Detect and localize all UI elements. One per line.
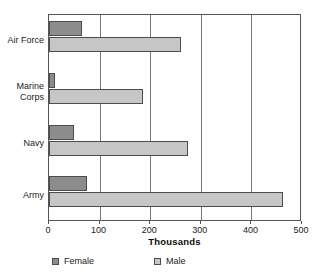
y-axis-label-line: Navy bbox=[0, 138, 44, 149]
y-axis-label-line: Corps bbox=[0, 92, 44, 103]
bar-group bbox=[49, 15, 300, 67]
legend-label: Male bbox=[166, 256, 186, 267]
bar-group bbox=[49, 119, 300, 171]
x-axis-tick-mark bbox=[149, 221, 150, 224]
y-axis-labels: Air ForceMarineCorpsNavyArmy bbox=[0, 14, 44, 221]
x-axis-title: Thousands bbox=[48, 236, 301, 247]
legend-item-female[interactable]: Female bbox=[52, 256, 94, 267]
y-axis-label-army: Army bbox=[0, 190, 44, 201]
x-axis-tick-mark bbox=[48, 221, 49, 224]
x-axis-tick-label: 400 bbox=[243, 225, 258, 236]
x-axis-tick-mark bbox=[99, 221, 100, 224]
bar-female-marine-corps bbox=[49, 73, 55, 88]
bar-male-army bbox=[49, 192, 283, 207]
bar-male-navy bbox=[49, 141, 188, 156]
y-axis-label-line: Army bbox=[0, 190, 44, 201]
bar-female-navy bbox=[49, 125, 74, 140]
x-axis-tick-label: 100 bbox=[91, 225, 106, 236]
legend-item-male[interactable]: Male bbox=[154, 256, 186, 267]
bar-group bbox=[49, 67, 300, 119]
x-axis-tick-label: 300 bbox=[192, 225, 207, 236]
x-axis-tick-mark bbox=[250, 221, 251, 224]
bar-male-air-force bbox=[49, 37, 181, 52]
legend-swatch-icon bbox=[154, 258, 161, 265]
y-axis-label-marine-corps: MarineCorps bbox=[0, 81, 44, 102]
bar-female-army bbox=[49, 176, 87, 191]
y-axis-label-line: Marine bbox=[0, 81, 44, 92]
plot-area bbox=[48, 14, 301, 221]
y-axis-label-navy: Navy bbox=[0, 138, 44, 149]
legend-label: Female bbox=[64, 256, 94, 267]
x-axis-tick-mark bbox=[301, 221, 302, 224]
y-axis-label-air-force: Air Force bbox=[0, 35, 44, 46]
x-axis-tick-label: 200 bbox=[142, 225, 157, 236]
bar-male-marine-corps bbox=[49, 89, 143, 104]
legend-swatch-icon bbox=[52, 258, 59, 265]
x-axis-ticks: 0100200300400500 bbox=[48, 221, 301, 237]
x-axis-tick-label: 0 bbox=[45, 225, 50, 236]
bar-female-air-force bbox=[49, 21, 82, 36]
x-axis-tick-label: 500 bbox=[293, 225, 308, 236]
bar-chart: Air ForceMarineCorpsNavyArmy 01002003004… bbox=[0, 0, 321, 273]
bar-group bbox=[49, 170, 300, 222]
legend: FemaleMale bbox=[48, 256, 301, 270]
x-axis-tick-mark bbox=[200, 221, 201, 224]
y-axis-label-line: Air Force bbox=[0, 35, 44, 46]
